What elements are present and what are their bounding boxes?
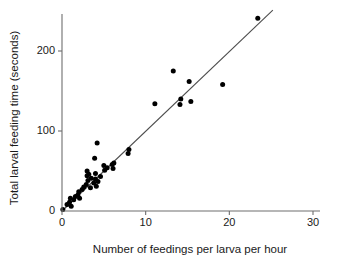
y-tick-label: 200 — [37, 44, 55, 56]
data-point — [77, 196, 82, 201]
y-axis-title: Total larval feeding time (seconds) — [8, 31, 20, 206]
data-point — [69, 204, 74, 209]
x-axis-title: Number of feedings per larva per hour — [93, 243, 287, 255]
data-point — [111, 166, 116, 171]
x-tick-label: 10 — [140, 216, 152, 228]
data-point — [92, 156, 97, 161]
y-tick-label: 100 — [37, 124, 55, 136]
data-point — [111, 161, 116, 166]
scatter-plot-figure: 0102030 0100200 Number of feedings per l… — [0, 0, 338, 262]
x-axis-ticks: 0102030 — [59, 211, 319, 228]
y-tick-label: 0 — [49, 204, 55, 216]
x-tick-label: 30 — [307, 216, 319, 228]
x-tick-label: 0 — [59, 216, 65, 228]
data-point — [89, 176, 94, 181]
data-point — [152, 101, 157, 106]
data-point — [187, 79, 192, 84]
data-point — [93, 171, 98, 176]
data-point — [177, 102, 182, 107]
data-point — [105, 165, 110, 170]
data-point — [98, 174, 103, 179]
data-point — [95, 179, 100, 184]
data-point — [220, 82, 225, 87]
axes — [62, 14, 320, 211]
data-point — [88, 185, 93, 190]
chart-canvas: 0102030 0100200 Number of feedings per l… — [0, 0, 338, 262]
data-point — [178, 97, 183, 102]
data-point — [95, 141, 100, 146]
data-point — [126, 147, 131, 152]
x-tick-label: 20 — [223, 216, 235, 228]
data-point-group — [60, 16, 260, 212]
data-point — [171, 69, 176, 74]
data-point — [94, 184, 99, 189]
data-point — [255, 16, 260, 21]
y-axis-ticks: 0100200 — [37, 44, 62, 216]
data-point — [188, 99, 193, 104]
